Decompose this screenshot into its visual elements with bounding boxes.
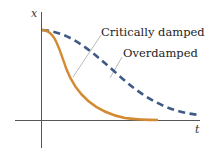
y-axis-label: x	[31, 7, 38, 20]
critically-damped-curve	[42, 30, 158, 120]
damping-diagram: x t Critically damped Overdamped	[0, 0, 218, 154]
critically-damped-label: Critically damped	[101, 25, 205, 39]
overdamped-label: Overdamped	[123, 46, 199, 60]
x-axis-label: t	[195, 123, 200, 136]
overdamped-curve	[42, 30, 200, 115]
